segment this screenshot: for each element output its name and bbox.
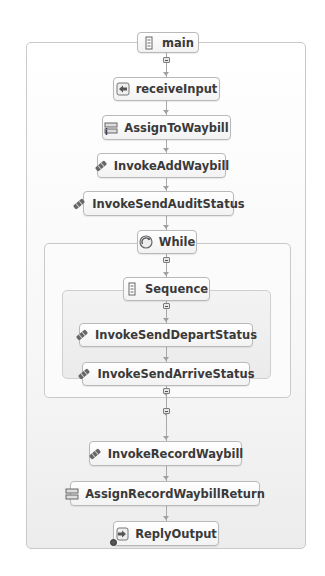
activity-label: receiveInput xyxy=(136,82,218,96)
sequence-icon xyxy=(142,36,156,50)
activity-InvokeSendAuditStatus[interactable]: InvokeSendAuditStatus xyxy=(83,191,234,216)
activity-label: InvokeRecordWaybill xyxy=(108,447,244,461)
activity-InvokeSendArriveStatus[interactable]: InvokeSendArriveStatus xyxy=(82,362,250,386)
connector-arrow xyxy=(163,436,169,440)
error-badge-icon xyxy=(110,539,117,546)
activity-label: InvokeSendArriveStatus xyxy=(97,367,254,381)
connector-arrow xyxy=(163,272,169,276)
activity-label: InvokeAddWaybill xyxy=(114,159,230,173)
activity-InvokeSendDepartStatus[interactable]: InvokeSendDepartStatus xyxy=(79,323,253,347)
connector-arrow xyxy=(163,476,169,480)
while-label: While xyxy=(159,235,196,249)
while-end-marker[interactable] xyxy=(163,408,170,414)
info-marker-icon: i xyxy=(105,129,108,137)
connector-arrow xyxy=(163,516,169,520)
receive-icon xyxy=(116,82,130,96)
invoke-icon xyxy=(72,197,86,211)
sequence-label: Sequence xyxy=(145,282,208,296)
assign-icon xyxy=(65,487,79,501)
activity-AssignToWaybill[interactable]: AssignToWaybill i xyxy=(102,115,231,140)
connector-arrow xyxy=(163,148,169,152)
activity-label: InvokeSendDepartStatus xyxy=(95,328,257,342)
activity-label: InvokeSendAuditStatus xyxy=(92,197,244,211)
activity-receiveInput[interactable]: receiveInput xyxy=(113,77,220,101)
while-icon xyxy=(139,235,153,249)
activity-ReplyOutput[interactable]: ReplyOutput xyxy=(113,521,219,546)
connector-arrow xyxy=(163,225,169,229)
process-label: main xyxy=(162,36,194,50)
invoke-icon xyxy=(77,367,91,381)
invoke-icon xyxy=(88,447,102,461)
activity-AssignRecordWaybillReturn[interactable]: AssignRecordWaybillReturn xyxy=(70,481,260,506)
sequence-collapse-toggle[interactable] xyxy=(163,303,170,309)
sequence-icon xyxy=(125,282,139,296)
connector-arrow xyxy=(163,186,169,190)
activity-InvokeRecordWaybill[interactable]: InvokeRecordWaybill xyxy=(89,441,242,466)
while-collapse-toggle[interactable] xyxy=(163,257,170,263)
connector-arrow xyxy=(163,110,169,114)
connector-arrow xyxy=(163,357,169,361)
sequence-end-marker[interactable] xyxy=(163,388,170,394)
sequence-node[interactable]: Sequence xyxy=(123,277,210,301)
while-loop-node[interactable]: While xyxy=(137,230,197,254)
activity-label: AssignToWaybill xyxy=(124,121,228,135)
connector-arrow xyxy=(163,318,169,322)
process-main-node[interactable]: main xyxy=(137,32,199,53)
invoke-icon xyxy=(94,159,108,173)
connector-arrow xyxy=(163,72,169,76)
reply-icon xyxy=(115,527,129,541)
main-collapse-toggle[interactable] xyxy=(163,57,170,63)
invoke-icon xyxy=(75,328,89,342)
activity-label: AssignRecordWaybillReturn xyxy=(85,487,265,501)
activity-label: ReplyOutput xyxy=(135,527,217,541)
activity-InvokeAddWaybill[interactable]: InvokeAddWaybill xyxy=(97,153,226,178)
